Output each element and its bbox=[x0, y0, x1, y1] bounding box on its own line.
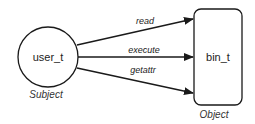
diagram-canvas: user_t Subject bin_t Object read execute… bbox=[0, 0, 255, 124]
subject-role-label: Subject bbox=[29, 89, 64, 100]
object-node: bin_t Object bbox=[194, 9, 242, 120]
object-role-label: Object bbox=[200, 109, 230, 120]
subject-label: user_t bbox=[33, 51, 64, 63]
execute-label: execute bbox=[128, 45, 160, 55]
edge-getattr: getattr bbox=[77, 65, 193, 93]
subject-node: user_t Subject bbox=[18, 27, 78, 100]
getattr-label: getattr bbox=[130, 65, 157, 75]
edge-read: read bbox=[77, 16, 193, 45]
object-label: bin_t bbox=[206, 51, 230, 63]
read-label: read bbox=[136, 16, 155, 26]
edge-execute: execute bbox=[78, 45, 193, 57]
